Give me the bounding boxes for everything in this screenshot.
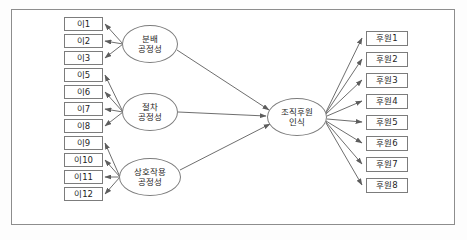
latent-factor-perceived-organizational-support: 조직후원 인식 [267,98,327,136]
indicator-box: 이11 [64,170,103,184]
structural-paths-to-pos [177,50,270,170]
indicator-box: 이6 [64,85,103,99]
indicator-box: 이2 [64,34,103,48]
indicator-box: 이10 [64,153,103,167]
latent-factor-procedural-justice: 절차 공정성 [122,93,178,131]
indicator-box: 이9 [64,136,103,150]
measurement-paths-support [326,38,362,185]
latent-label-line2: 공정성 [138,112,161,122]
indicator-box: 이3 [64,51,103,65]
measurement-paths-distributive [105,24,123,58]
measurement-paths-procedural [105,75,123,126]
endogenous-label-line1: 조직후원 [281,107,312,117]
latent-factor-interactional-justice: 상호작용 공정성 [119,158,181,196]
indicator-box: 이12 [64,187,103,201]
indicator-box: 후원3 [366,73,408,88]
indicator-box: 후원2 [366,52,408,67]
latent-label-line1: 절차 [142,102,158,112]
indicator-box: 후원1 [366,31,408,46]
sem-diagram-canvas: 이1 이2 이3 이5 이6 이7 이8 이9 이10 이11 이12 분배 공… [0,0,467,240]
indicator-box: 이5 [64,68,103,82]
endogenous-label-line2: 인식 [289,117,305,127]
indicator-box: 후원6 [366,136,408,151]
indicator-box: 이1 [64,17,103,31]
latent-label-line2: 공정성 [138,177,161,187]
latent-factor-distributive-justice: 분배 공정성 [122,25,178,63]
indicator-box: 후원7 [366,157,408,172]
indicator-box: 후원4 [366,94,408,109]
latent-label-line1: 분배 [142,34,158,44]
indicator-box: 이8 [64,119,103,133]
indicator-box: 이7 [64,102,103,116]
latent-label-line1: 상호작용 [134,167,165,177]
latent-label-line2: 공정성 [138,44,161,54]
indicator-box: 후원8 [366,178,408,193]
indicator-box: 후원5 [366,115,408,130]
measurement-paths-interactional [105,143,120,194]
